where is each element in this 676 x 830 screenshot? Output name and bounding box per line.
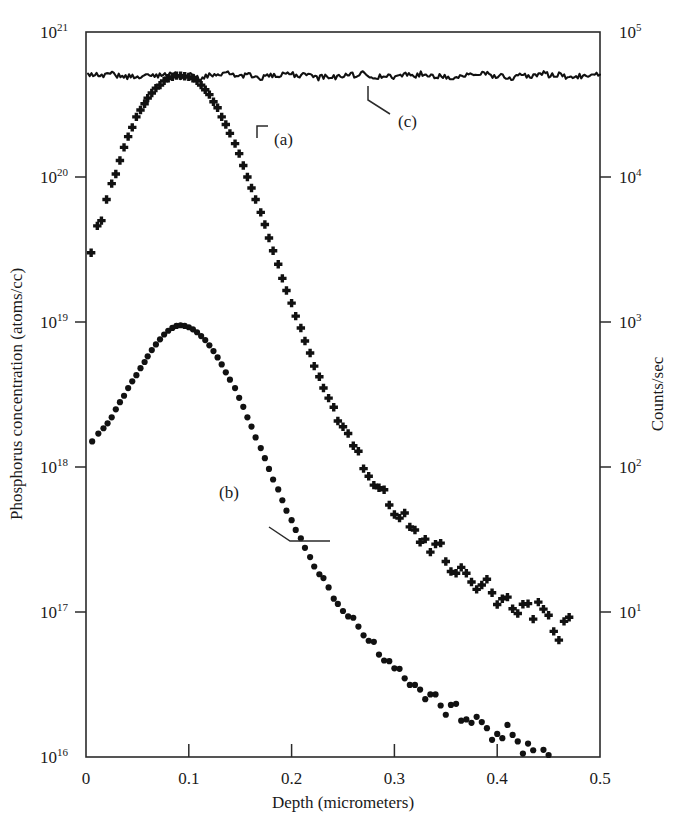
data-point-marker — [371, 639, 377, 645]
data-point-marker — [235, 149, 243, 157]
y-axis-title-right: Counts/sec — [648, 356, 667, 431]
data-point-marker — [231, 139, 239, 147]
data-point-marker — [520, 750, 526, 756]
x-tick-label: 0.4 — [487, 769, 509, 788]
data-point-marker — [236, 395, 242, 401]
data-point-marker — [494, 731, 500, 737]
data-point-marker — [396, 666, 402, 672]
data-point-marker — [339, 423, 347, 431]
series-label-a: (a) — [274, 130, 293, 149]
data-point-marker — [354, 447, 362, 455]
leader-line-a — [257, 126, 268, 138]
data-point-marker — [508, 604, 516, 612]
data-point-marker — [467, 578, 475, 586]
data-point-marker — [544, 611, 552, 619]
data-point-marker — [540, 747, 546, 753]
data-point-marker — [226, 129, 234, 137]
data-point-marker — [402, 675, 408, 681]
data-point-marker — [239, 161, 247, 169]
data-point-marker — [112, 170, 120, 178]
data-point-marker — [462, 569, 470, 577]
data-point-marker — [457, 563, 465, 571]
data-point-marker — [133, 372, 139, 378]
data-point-marker — [102, 195, 110, 203]
y-tick-label-left: 1018 — [40, 456, 69, 477]
data-point-marker — [293, 527, 299, 533]
data-point-marker — [124, 132, 132, 140]
data-point-marker — [89, 438, 95, 444]
series-label-c: (c) — [398, 112, 417, 131]
data-point-marker — [306, 349, 314, 357]
data-point-marker — [432, 691, 438, 697]
data-point-marker — [202, 337, 208, 343]
data-point-marker — [253, 434, 259, 440]
x-axis-title: Depth (micrometers) — [272, 793, 414, 812]
data-point-marker — [292, 312, 300, 320]
data-point-marker — [95, 430, 101, 436]
data-point-marker — [400, 509, 408, 517]
data-point-marker — [550, 627, 558, 635]
x-axis-ticks — [189, 744, 497, 757]
y-tick-label-left: 1017 — [40, 601, 69, 622]
y-tick-label-right: 105 — [619, 21, 642, 42]
data-point-marker — [302, 545, 308, 551]
data-point-marker — [539, 605, 547, 613]
data-point-marker — [219, 361, 225, 367]
data-point-marker — [265, 234, 273, 242]
series-a-points — [87, 71, 573, 644]
data-point-marker — [311, 563, 317, 569]
leader-line-c — [368, 86, 390, 114]
data-point-marker — [153, 341, 159, 347]
data-point-marker — [546, 752, 552, 758]
data-point-marker — [488, 589, 496, 597]
data-point-marker — [116, 156, 124, 164]
data-point-marker — [489, 737, 495, 743]
data-point-marker — [453, 701, 459, 707]
data-point-marker — [463, 716, 469, 722]
data-point-marker — [366, 638, 372, 644]
data-point-marker — [261, 220, 269, 228]
y-tick-label-right: 103 — [619, 311, 642, 332]
data-point-marker — [340, 608, 346, 614]
data-point-marker — [359, 464, 367, 472]
data-point-marker — [141, 359, 147, 365]
data-point-marker — [365, 472, 373, 480]
data-point-marker — [349, 442, 357, 450]
plot-frame — [86, 32, 600, 757]
data-point-marker — [232, 385, 238, 391]
data-point-marker — [524, 599, 532, 607]
data-point-marker — [251, 195, 259, 203]
y-axis-title-left: Phosphorus concentration (atoms/cc) — [7, 268, 26, 520]
data-point-marker — [412, 682, 418, 688]
y-tick-label-right: 102 — [619, 456, 642, 477]
annotation-labels: (a) (b) (c) — [219, 112, 417, 502]
x-tick-label: 0.5 — [589, 769, 610, 788]
data-point-marker — [287, 299, 295, 307]
data-point-marker — [386, 658, 392, 664]
data-point-marker — [87, 249, 95, 257]
data-point-marker — [269, 247, 277, 255]
data-point-marker — [307, 554, 313, 560]
plot-area-border — [86, 32, 600, 757]
y-tick-label-left: 1021 — [40, 21, 68, 42]
data-point-marker — [555, 636, 563, 644]
data-point-marker — [210, 348, 216, 354]
data-point-marker — [120, 143, 128, 151]
data-point-marker — [504, 722, 510, 728]
data-point-marker — [534, 598, 542, 606]
data-point-marker — [320, 575, 326, 581]
data-point-marker — [529, 615, 537, 623]
data-point-marker — [499, 735, 505, 741]
data-point-marker — [145, 353, 151, 359]
x-tick-label: 0.1 — [178, 769, 199, 788]
data-point-marker — [128, 123, 136, 131]
data-point-marker — [442, 557, 450, 565]
data-point-marker — [243, 173, 251, 181]
data-point-marker — [330, 403, 338, 411]
data-point-marker — [479, 719, 485, 725]
data-point-marker — [222, 120, 230, 128]
data-point-marker — [121, 393, 127, 399]
data-point-marker — [483, 575, 491, 583]
data-point-marker — [350, 615, 356, 621]
series-label-b: (b) — [219, 483, 239, 502]
